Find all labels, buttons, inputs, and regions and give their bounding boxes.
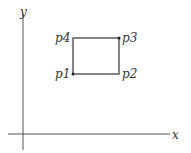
point-p1-dot xyxy=(72,73,75,76)
rectangle xyxy=(73,38,119,74)
point-p2-label: p2 xyxy=(122,67,137,81)
y-axis-label: y xyxy=(19,5,27,19)
point-p3-label: p3 xyxy=(122,31,138,45)
x-axis-label: x xyxy=(172,128,179,142)
point-p4-label: p4 xyxy=(55,31,70,45)
point-p1-label: p1 xyxy=(55,67,70,81)
point-p3-dot xyxy=(118,37,121,40)
coordinate-diagram: y x p1 p2 p3 p4 xyxy=(0,0,191,153)
